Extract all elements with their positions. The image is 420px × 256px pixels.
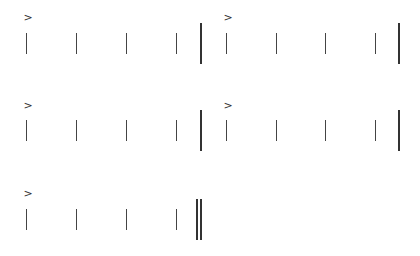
note-stem bbox=[176, 33, 177, 54]
note-stem bbox=[26, 120, 27, 141]
note-stem bbox=[176, 120, 177, 141]
accent-mark: > bbox=[223, 12, 233, 23]
note-stem bbox=[375, 120, 376, 141]
note-stem bbox=[276, 120, 277, 141]
accent-mark: > bbox=[23, 100, 33, 111]
note-stem bbox=[325, 33, 326, 54]
note-stem bbox=[226, 120, 227, 141]
note-stem bbox=[126, 120, 127, 141]
final-double-barline bbox=[196, 199, 203, 240]
note-stem bbox=[375, 33, 376, 54]
note-stem bbox=[26, 33, 27, 54]
barline bbox=[398, 23, 400, 64]
staff-system-3: > bbox=[0, 188, 420, 248]
note-stem bbox=[176, 209, 177, 230]
note-stem bbox=[126, 33, 127, 54]
barline bbox=[200, 23, 202, 64]
note-stem bbox=[76, 120, 77, 141]
accent-mark: > bbox=[23, 188, 33, 199]
barline bbox=[200, 110, 202, 151]
barline bbox=[196, 199, 198, 240]
note-stem bbox=[126, 209, 127, 230]
note-stem bbox=[276, 33, 277, 54]
accent-mark: > bbox=[223, 100, 233, 111]
note-stem bbox=[325, 120, 326, 141]
note-stem bbox=[76, 33, 77, 54]
barline bbox=[200, 199, 202, 240]
note-stem bbox=[76, 209, 77, 230]
barline bbox=[398, 110, 400, 151]
staff-system-1: > > bbox=[0, 12, 420, 72]
accent-mark: > bbox=[23, 12, 33, 23]
staff-system-2: > > bbox=[0, 100, 420, 160]
note-stem bbox=[26, 209, 27, 230]
note-stem bbox=[226, 33, 227, 54]
